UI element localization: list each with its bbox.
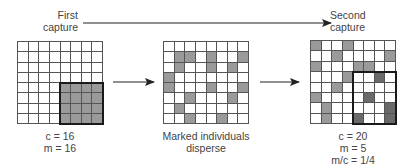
marked-cell [354, 62, 365, 72]
grid-cell [217, 83, 228, 93]
marked-cell [322, 103, 333, 113]
grid-cell [238, 42, 249, 52]
marked-cell [343, 41, 354, 51]
grid-cell [71, 73, 82, 83]
marked-cell [92, 83, 103, 93]
grid-cell [217, 104, 228, 114]
grid-cell [343, 93, 354, 103]
recaptured-marked-cell [385, 103, 396, 113]
grid-cell [185, 42, 196, 52]
grid-cell [343, 83, 354, 93]
grid-cell [50, 93, 61, 103]
marked-cell [92, 93, 103, 103]
grid-cell [364, 72, 375, 82]
grid-cell [82, 42, 93, 52]
second-capture-caption: c = 20 m = 5 m/c = 1/4 [300, 130, 406, 166]
grid-cell [18, 104, 29, 114]
grid-cell [39, 114, 50, 124]
grid-cell [385, 41, 396, 51]
grid-cell [164, 93, 175, 103]
grid-cell [343, 51, 354, 61]
grid-cell [92, 73, 103, 83]
grid-cell [29, 114, 40, 124]
grid-cell [375, 114, 386, 124]
caption-c: c = 16 [17, 130, 103, 142]
second-capture-label-line2: capture [330, 21, 386, 33]
grid-cell [332, 93, 343, 103]
grid-cell [29, 73, 40, 83]
second-capture-grid [310, 40, 396, 124]
grid-cell [228, 104, 239, 114]
grid-cell [196, 114, 207, 124]
grid-cell [92, 63, 103, 73]
grid-cell [50, 52, 61, 62]
grid-cell [364, 41, 375, 51]
grid-cell [332, 62, 343, 72]
grid-cell [196, 93, 207, 103]
grid-cell [385, 83, 396, 93]
grid-cell [354, 83, 365, 93]
grid-cell [238, 114, 249, 124]
marked-cell [61, 83, 72, 93]
marked-cell [185, 52, 196, 62]
grid-cell [228, 83, 239, 93]
caption-line1: Marked individuals [146, 130, 266, 142]
recaptured-marked-cell [385, 114, 396, 124]
grid-cell [164, 63, 175, 73]
marked-cell [175, 52, 186, 62]
marked-cell [61, 114, 72, 124]
marked-cell [71, 83, 82, 93]
grid-cell [185, 104, 196, 114]
grid-cell [164, 114, 175, 124]
marked-cell [164, 83, 175, 93]
marked-cell [61, 104, 72, 114]
grid-cell [29, 52, 40, 62]
caption-ratio: m/c = 1/4 [300, 154, 406, 166]
grid-cell [385, 72, 396, 82]
marked-cell [364, 62, 375, 72]
grid-cell [61, 42, 72, 52]
grid-cell [385, 93, 396, 103]
marked-cell [92, 114, 103, 124]
grid-cell [18, 63, 29, 73]
grid-cell [82, 73, 93, 83]
marked-cell [71, 104, 82, 114]
grid-cell [39, 104, 50, 114]
grid-cell [238, 93, 249, 103]
marked-cell [385, 51, 396, 61]
grid-cell [39, 73, 50, 83]
marked-cell [238, 52, 249, 62]
grid-cell [82, 63, 93, 73]
grid-cell [39, 52, 50, 62]
grid-cell [343, 103, 354, 113]
grid-cell [217, 52, 228, 62]
grid-cell [71, 42, 82, 52]
grid-cell [175, 42, 186, 52]
grid-cell [217, 63, 228, 73]
grid-cell [217, 93, 228, 103]
grid-cell [18, 114, 29, 124]
grid-cell [354, 93, 365, 103]
marked-cell [238, 83, 249, 93]
recaptured-marked-cell [375, 72, 386, 82]
marked-cell [322, 114, 333, 124]
grid-cell [322, 93, 333, 103]
first-capture-label-line2: capture [20, 21, 78, 33]
grid-cell [185, 73, 196, 83]
marked-cell [82, 93, 93, 103]
grid-cell [71, 52, 82, 62]
marked-cell [207, 63, 218, 73]
grid-cell [175, 83, 186, 93]
grid-cell [311, 83, 322, 93]
grid-cell [196, 52, 207, 62]
dispersal-caption: Marked individuals disperse [146, 130, 266, 154]
grid-cell [217, 42, 228, 52]
grid-cell [29, 42, 40, 52]
grid-cell [29, 83, 40, 93]
marked-cell [185, 114, 196, 124]
grid-cell [375, 41, 386, 51]
grid-cell [175, 114, 186, 124]
grid-cell [196, 63, 207, 73]
grid-cell [354, 72, 365, 82]
grid-cell [311, 114, 322, 124]
